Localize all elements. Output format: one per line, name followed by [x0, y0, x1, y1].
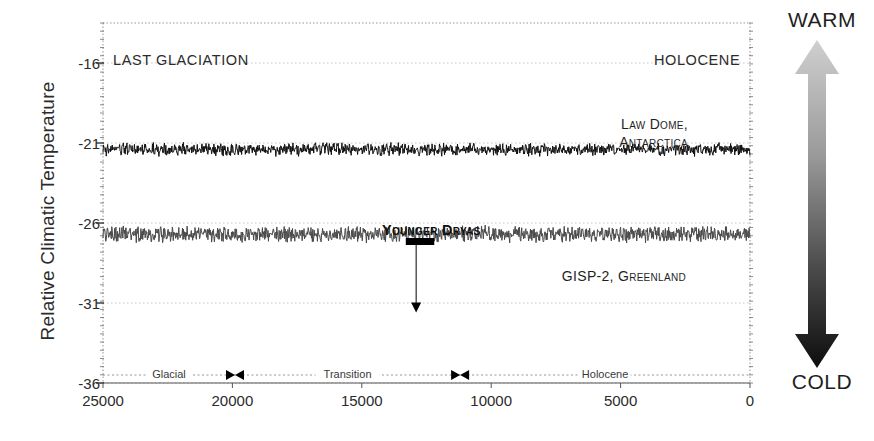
- phase-boundary-marker: [226, 370, 235, 380]
- cold-label: COLD: [770, 370, 874, 394]
- x-tick-label: 5000: [576, 392, 666, 409]
- phase-bar-label: Holocene: [582, 368, 628, 380]
- climate-chart-figure: Relative Climatic Temperature -16-21-26-…: [0, 0, 874, 441]
- series-label-law-dome-line1: Law Dome,: [470, 116, 688, 134]
- younger-dryas-bar: [406, 238, 434, 245]
- x-tick-label: 10000: [446, 392, 536, 409]
- phase-bar-label: Glacial: [152, 368, 186, 380]
- series-label-gisp-2: GISP-2, Greenland: [420, 268, 686, 284]
- series-label-law-dome-line2: Antarctica: [470, 134, 688, 152]
- annotation-holocene: HOLOCENE: [654, 52, 740, 68]
- x-tick-label: 15000: [317, 392, 407, 409]
- annotation-last-glaciation: LAST GLACIATION: [113, 52, 249, 68]
- phase-bar-label: Transition: [324, 368, 372, 380]
- x-tick-label: 0: [705, 392, 795, 409]
- annotation-younger-dryas: Younger Dryas: [382, 222, 480, 238]
- warm-label: WARM: [770, 8, 874, 32]
- phase-boundary-marker: [460, 370, 469, 380]
- x-tick-label: 25000: [58, 392, 148, 409]
- phase-boundary-marker: [235, 370, 244, 380]
- series-label-law-dome: Law Dome, Antarctica: [470, 116, 688, 152]
- younger-dryas-pointer-arrowhead: [411, 303, 421, 313]
- x-axis-tick-labels: 2500020000150001000050000: [0, 392, 874, 418]
- phase-boundary-marker: [451, 370, 460, 380]
- x-tick-label: 20000: [187, 392, 277, 409]
- warm-cold-arrow-icon: [782, 40, 852, 368]
